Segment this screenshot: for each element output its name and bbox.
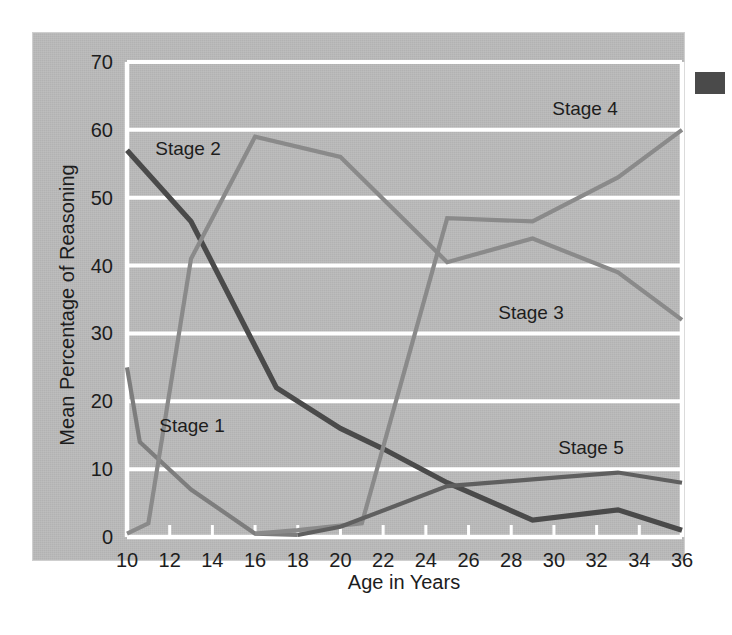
y-tick-label: 20: [91, 390, 113, 412]
x-tick-label: 22: [372, 549, 394, 571]
x-tick-label: 36: [671, 549, 693, 571]
x-tick-label: 16: [244, 549, 266, 571]
y-tick-label: 40: [91, 255, 113, 277]
x-tick-label: 30: [543, 549, 565, 571]
series-annotations: Stage 1Stage 2Stage 3Stage 4Stage 5: [155, 98, 624, 458]
x-tick-label: 14: [201, 549, 223, 571]
x-axis-title: Age in Years: [348, 571, 460, 593]
x-tick-label: 18: [287, 549, 309, 571]
y-axis-title: Mean Percentage of Reasoning: [56, 164, 78, 445]
x-tick-label: 32: [585, 549, 607, 571]
chart-figure: 010203040506070 101214161820222426283032…: [0, 0, 732, 635]
y-tick-label: 30: [91, 322, 113, 344]
y-tick-label: 50: [91, 187, 113, 209]
x-tick-label: 10: [116, 549, 138, 571]
y-axis-tick-labels: 010203040506070: [91, 51, 113, 548]
x-axis-tick-labels: 1012141618202224262830323436: [116, 549, 693, 571]
x-tick-label: 24: [415, 549, 437, 571]
annotation-stage-1: Stage 1: [159, 415, 225, 436]
line-chart: 010203040506070 101214161820222426283032…: [0, 0, 732, 635]
x-tick-label: 26: [457, 549, 479, 571]
y-tick-label: 10: [91, 458, 113, 480]
x-tick-label: 20: [329, 549, 351, 571]
y-tick-label: 60: [91, 119, 113, 141]
annotation-stage-4: Stage 4: [552, 98, 618, 119]
x-tick-label: 12: [159, 549, 181, 571]
annotation-stage-2: Stage 2: [155, 138, 221, 159]
x-tick-label: 28: [500, 549, 522, 571]
y-tick-label: 0: [102, 526, 113, 548]
annotation-stage-5: Stage 5: [558, 437, 624, 458]
x-tick-label: 34: [628, 549, 650, 571]
y-tick-label: 70: [91, 51, 113, 73]
annotation-stage-3: Stage 3: [498, 302, 564, 323]
gridlines: [127, 62, 682, 537]
